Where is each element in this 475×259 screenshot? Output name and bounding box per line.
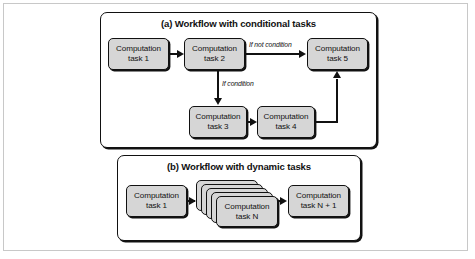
arrowhead-a1-a2 — [177, 50, 184, 58]
task-node-a4[interactable]: Computation task 4 — [257, 106, 315, 138]
task-node-a3-line1: Computation — [196, 112, 241, 122]
task-node-bN1-line2: task N + 1 — [301, 201, 337, 211]
arrowhead-a2-a3 — [214, 98, 222, 105]
task-node-a1[interactable]: Computation task 1 — [108, 38, 169, 70]
task-node-b1[interactable]: Computation task 1 — [126, 185, 187, 217]
task-node-a2-line2: task 2 — [204, 54, 225, 64]
task-node-b1-line2: task 1 — [146, 201, 167, 211]
connector-a4-a5-vertical — [336, 79, 338, 122]
arrowhead-b1-bN — [189, 197, 196, 205]
connector-a2-a3 — [217, 71, 219, 99]
task-node-stack-bN[interactable]: Computation task N — [196, 180, 276, 235]
task-node-bN-line2: task N — [236, 212, 258, 222]
panel-a-title: (a) Workflow with conditional tasks — [101, 18, 376, 29]
task-node-a5-line2: task 5 — [327, 54, 348, 64]
task-node-a5[interactable]: Computation task 5 — [307, 38, 368, 70]
task-node-bN-line1: Computation — [225, 202, 270, 212]
arrowhead-a2-a5 — [299, 50, 306, 58]
arrowhead-a3-a4 — [250, 118, 257, 126]
task-node-bN1[interactable]: Computation task N + 1 — [288, 185, 349, 217]
connector-a4-a5-horizontal — [315, 121, 338, 123]
figure-container: (a) Workflow with conditional tasks Comp… — [0, 0, 475, 259]
arrowhead-bN-bN1 — [280, 197, 287, 205]
task-node-a4-line1: Computation — [264, 112, 309, 122]
task-node-a3[interactable]: Computation task 3 — [189, 106, 247, 138]
arrowhead-a4-a5 — [333, 71, 341, 78]
stack-card-front-bN[interactable]: Computation task N — [216, 196, 278, 227]
task-node-a3-line2: task 3 — [208, 122, 229, 132]
task-node-a4-line2: task 4 — [276, 122, 297, 132]
task-node-a1-line1: Computation — [116, 44, 161, 54]
edge-label-if-not-condition: If not condition — [249, 41, 292, 48]
task-node-bN1-line1: Computation — [296, 191, 341, 201]
task-node-b1-line1: Computation — [134, 191, 179, 201]
task-node-a1-line2: task 1 — [128, 54, 149, 64]
connector-a2-a5 — [246, 53, 300, 55]
task-node-a2[interactable]: Computation task 2 — [184, 38, 245, 70]
panel-b-title: (b) Workflow with dynamic tasks — [118, 161, 360, 172]
task-node-a2-line1: Computation — [192, 44, 237, 54]
task-node-a5-line1: Computation — [315, 44, 360, 54]
edge-label-if-condition: If condition — [222, 80, 254, 87]
